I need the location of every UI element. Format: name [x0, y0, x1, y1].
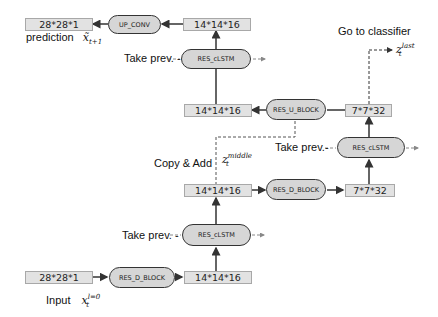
op-res-clstm-bottom: RES_cLSTM	[182, 224, 251, 246]
tensor-prediction-output: 28*28*1	[25, 18, 93, 31]
go-to-classifier-label: Go to classifier	[338, 25, 411, 37]
op-up-conv: UP_CONV	[108, 15, 161, 34]
op-res-u-block: RES_U_BLOCK	[266, 99, 326, 120]
input-label: Input xl=0t	[46, 293, 89, 309]
prediction-symbol: x̃t+1	[83, 31, 102, 44]
copy-add-label: Copy & Add	[154, 157, 212, 169]
tensor-upblock-output: 14*14*16	[184, 104, 252, 117]
op-res-clstm-top: RES_cLSTM	[181, 49, 251, 69]
z-middle-sup: middle	[228, 152, 252, 160]
connection-arrows	[0, 0, 438, 317]
op-res-clstm-right: RES_cLSTM	[337, 137, 405, 158]
op-res-d-block-middle: RES_D_BLOCK	[266, 179, 326, 200]
input-text: Input	[46, 294, 70, 306]
tensor-downblock-output: 7*7*32	[345, 184, 395, 197]
prediction-text: prediction	[26, 31, 74, 43]
input-sup: l=0	[88, 293, 101, 301]
take-prev-label-right: Take prev.-	[275, 141, 329, 153]
z-middle-sub: t	[226, 160, 229, 168]
z-middle-symbol: zmiddlet	[222, 152, 229, 168]
take-prev-label-bottom: Take prev. -	[122, 229, 179, 241]
tensor-downblock-input: 14*14*16	[184, 184, 252, 197]
input-symbol: xl=0t	[82, 294, 90, 307]
architecture-diagram: 28*28*1 14*14*16 14*14*16 7*7*32 14*14*1…	[0, 0, 438, 317]
prediction-sub: t+1	[89, 38, 102, 46]
take-prev-label-top: Take prev. -	[124, 52, 181, 64]
op-res-d-block-bottom: RES_D_BLOCK	[109, 267, 175, 288]
tensor-top-hidden: 14*14*16	[183, 18, 251, 31]
z-last-symbol: zlastt	[396, 42, 401, 58]
input-sub: t	[86, 301, 89, 309]
z-last-sup: last	[402, 42, 415, 50]
prediction-label: prediction x̃t+1	[26, 31, 102, 46]
tensor-first-block-output: 14*14*16	[184, 271, 252, 284]
tensor-upblock-input: 7*7*32	[345, 104, 392, 117]
tensor-input: 28*28*1	[25, 271, 93, 284]
